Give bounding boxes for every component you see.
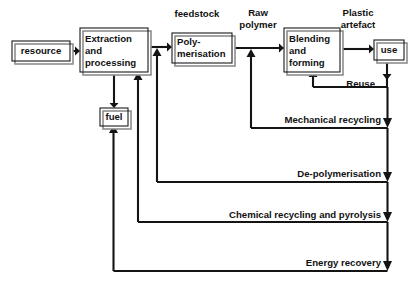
node-polymerisation: Poly- merisation — [172, 33, 235, 66]
node-blending-label-3: forming — [289, 57, 325, 68]
node-use-label: use — [381, 44, 398, 55]
label-feedstock: feedstock — [175, 8, 220, 19]
flow-diagram-canvas: Plastics lifecycle and recovery routes f… — [0, 0, 414, 286]
label-plastic-artefact-line2: artefact — [341, 19, 376, 30]
node-extraction-label-2: and — [85, 45, 102, 56]
label-energy-recovery: Energy recovery — [306, 257, 382, 268]
node-fuel-label: fuel — [105, 111, 122, 122]
node-resource-label: resource — [21, 45, 62, 56]
node-resource: resource — [12, 41, 73, 64]
node-extraction-label-3: processing — [85, 57, 136, 68]
node-polymerisation-label-1: Poly- — [177, 36, 200, 47]
edge-extraction-to-fuel — [110, 72, 119, 108]
label-raw-polymer-line1: Raw — [248, 7, 268, 18]
edge-blending-to-use — [340, 45, 374, 54]
label-chemical-recycling: Chemical recycling and pyrolysis — [229, 209, 381, 220]
label-reuse: Reuse — [346, 78, 375, 89]
node-extraction: Extraction and processing — [80, 28, 151, 75]
node-polymerisation-label-2: merisation — [177, 48, 226, 59]
flow-diagram: Plastics lifecycle and recovery routes f… — [0, 0, 414, 286]
label-plastic-artefact-line1: Plastic — [343, 7, 375, 18]
label-de-polymerisation: De-polymerisation — [297, 168, 381, 179]
label-mechanical-recycling: Mechanical recycling — [284, 114, 381, 125]
edge-polymerisation-to-blending — [232, 44, 284, 53]
edge-chemical-recycling — [134, 72, 393, 222]
connectors — [70, 43, 392, 272]
node-blending-label-1: Blending — [289, 33, 330, 44]
node-extraction-label-1: Extraction — [85, 33, 132, 44]
edge-energy-recovery — [109, 125, 392, 271]
node-fuel: fuel — [100, 108, 131, 129]
node-use: use — [374, 40, 407, 63]
label-raw-polymer-line2: polymer — [239, 19, 277, 30]
node-blending: Blending and forming — [284, 28, 343, 75]
node-blending-label-2: and — [289, 45, 306, 56]
